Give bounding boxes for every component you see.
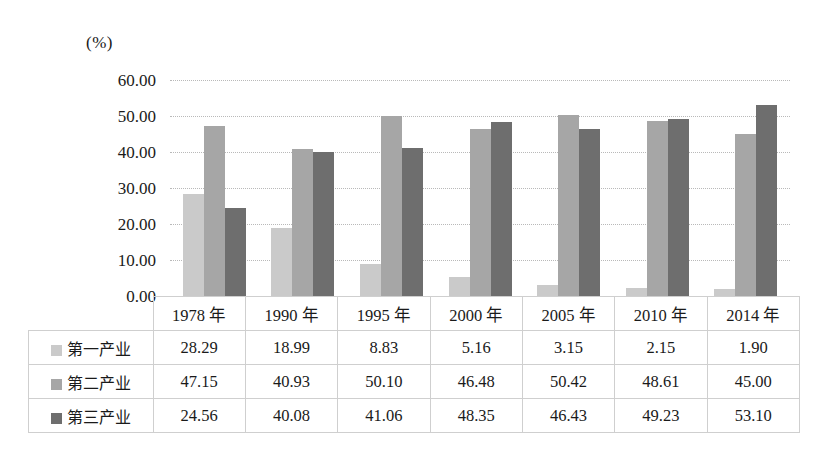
- data-table: 1978 年1990 年1995 年2000 年2005 年2010 年2014…: [28, 296, 800, 433]
- plot-area: 60.0050.0040.0030.0020.0010.000.00: [170, 80, 790, 296]
- bar-group: [524, 80, 613, 296]
- table-body: 第一产业28.2918.998.835.163.152.151.90第二产业47…: [29, 331, 800, 433]
- bar: [626, 288, 647, 296]
- table-cell-value: 28.29: [153, 331, 245, 365]
- table-corner-cell: [29, 297, 154, 331]
- bar: [537, 285, 558, 296]
- table-cell-value: 46.48: [430, 365, 522, 399]
- bar: [756, 105, 777, 296]
- table-cell-value: 1.90: [707, 331, 799, 365]
- table-cell-value: 48.61: [615, 365, 707, 399]
- legend-series-label: 第三产业: [29, 399, 154, 433]
- bar-group: [347, 80, 436, 296]
- y-axis-tick-label: 60.00: [118, 72, 156, 89]
- bar: [668, 119, 689, 296]
- table-column-header: 2010 年: [615, 297, 707, 331]
- table-cell-value: 2.15: [615, 331, 707, 365]
- table-column-header: 2005 年: [522, 297, 614, 331]
- table-cell-value: 8.83: [338, 331, 430, 365]
- bar: [449, 277, 470, 296]
- bar: [313, 152, 334, 296]
- table-cell-value: 50.42: [522, 365, 614, 399]
- bar-group: [436, 80, 525, 296]
- bar: [735, 134, 756, 296]
- bar: [381, 116, 402, 296]
- bar: [271, 228, 292, 296]
- y-axis-tick-label: 40.00: [118, 143, 156, 160]
- y-axis-unit-label: (%): [86, 33, 113, 53]
- table-cell-value: 3.15: [522, 331, 614, 365]
- bar: [714, 289, 735, 296]
- table-cell-value: 40.08: [245, 399, 337, 433]
- y-axis-tick-label: 20.00: [118, 215, 156, 232]
- bar: [292, 149, 313, 296]
- table-row: 第三产业24.5640.0841.0648.3546.4349.2353.10: [29, 399, 800, 433]
- table-cell-value: 24.56: [153, 399, 245, 433]
- legend-swatch-icon: [51, 379, 62, 390]
- bar-group: [613, 80, 702, 296]
- bar-group: [701, 80, 790, 296]
- bar: [491, 122, 512, 296]
- table-column-header: 1978 年: [153, 297, 245, 331]
- y-axis-tick-label: 50.00: [118, 107, 156, 124]
- bar: [204, 126, 225, 296]
- table-row: 第二产业47.1540.9350.1046.4850.4248.6145.00: [29, 365, 800, 399]
- bar: [360, 264, 381, 296]
- table-cell-value: 40.93: [245, 365, 337, 399]
- bar: [579, 129, 600, 296]
- table-row: 第一产业28.2918.998.835.163.152.151.90: [29, 331, 800, 365]
- table-header: 1978 年1990 年1995 年2000 年2005 年2010 年2014…: [29, 297, 800, 331]
- bar: [647, 121, 668, 296]
- legend-series-label: 第一产业: [29, 331, 154, 365]
- bar: [183, 194, 204, 296]
- bar-groups: [170, 80, 790, 296]
- y-axis-tick-label: 10.00: [118, 252, 156, 269]
- table-column-header: 2014 年: [707, 297, 799, 331]
- chart-figure: (%) 60.0050.0040.0030.0020.0010.000.00 1…: [0, 0, 830, 469]
- table-column-header: 1990 年: [245, 297, 337, 331]
- table-cell-value: 45.00: [707, 365, 799, 399]
- bar-group: [170, 80, 259, 296]
- bar: [225, 208, 246, 296]
- table-column-header: 1995 年: [338, 297, 430, 331]
- table-cell-value: 5.16: [430, 331, 522, 365]
- y-axis-tick-label: 30.00: [118, 180, 156, 197]
- bar: [470, 129, 491, 296]
- table-column-header: 2000 年: [430, 297, 522, 331]
- bar: [558, 115, 579, 297]
- table-header-row: 1978 年1990 年1995 年2000 年2005 年2010 年2014…: [29, 297, 800, 331]
- table-cell-value: 41.06: [338, 399, 430, 433]
- table-cell-value: 46.43: [522, 399, 614, 433]
- bar: [402, 148, 423, 296]
- table-cell-value: 48.35: [430, 399, 522, 433]
- bar-group: [259, 80, 348, 296]
- table-cell-value: 47.15: [153, 365, 245, 399]
- legend-series-label: 第二产业: [29, 365, 154, 399]
- legend-swatch-icon: [51, 413, 62, 424]
- legend-swatch-icon: [51, 345, 62, 356]
- table-cell-value: 53.10: [707, 399, 799, 433]
- table-cell-value: 50.10: [338, 365, 430, 399]
- table-cell-value: 49.23: [615, 399, 707, 433]
- table-cell-value: 18.99: [245, 331, 337, 365]
